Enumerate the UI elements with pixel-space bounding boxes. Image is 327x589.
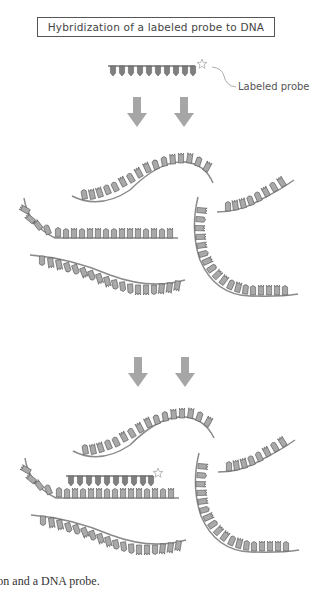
label-star-icon (153, 468, 163, 477)
arrow-down-icon-1 (127, 97, 194, 127)
denatured-dna-strands (19, 153, 298, 297)
hybridized-dna-strands (20, 408, 299, 555)
labeled-probe (108, 59, 236, 87)
bound-labeled-probe (66, 468, 163, 486)
arrow-down-icon-2 (128, 357, 195, 387)
label-star-icon (197, 59, 207, 68)
